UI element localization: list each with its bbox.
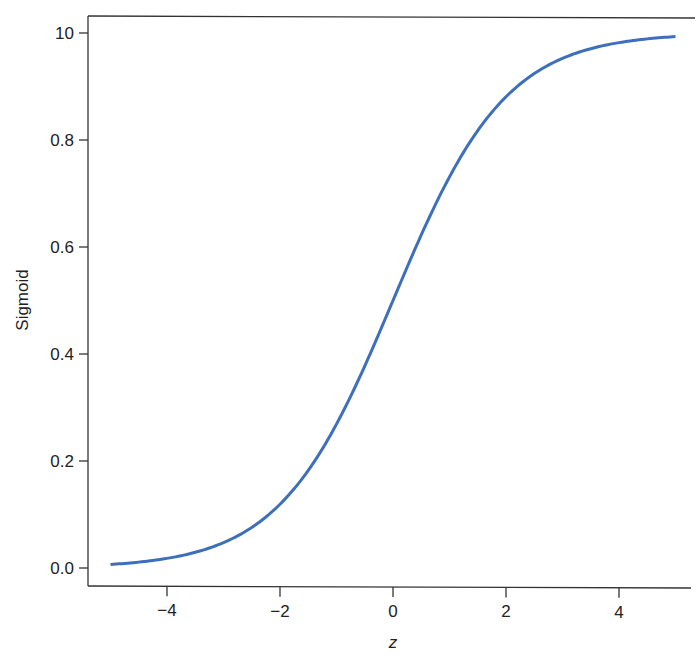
y-axis-ticks: 0.00.20.40.60.810 [50, 24, 88, 578]
sigmoid-curve [111, 37, 676, 565]
y-tick-label: 0.6 [50, 238, 74, 257]
y-tick-label: 10 [55, 24, 74, 43]
x-axis-ticks: −4−2024 [157, 586, 623, 621]
x-tick-label: 0 [388, 602, 397, 621]
y-tick-label: 0.2 [50, 452, 74, 471]
x-tick-label: −4 [157, 601, 176, 620]
x-tick-label: −2 [270, 602, 289, 621]
top-axis-line [88, 16, 695, 18]
y-axis-label: Sigmoid [13, 269, 32, 330]
y-tick-label: 0.4 [50, 345, 74, 364]
sigmoid-chart: 0.00.20.40.60.810 −4−2024 z Sigmoid [0, 0, 699, 664]
x-tick-label: 2 [501, 602, 510, 621]
x-tick-label: 4 [614, 603, 623, 622]
y-tick-label: 0.8 [50, 131, 74, 150]
y-tick-label: 0.0 [50, 559, 74, 578]
x-axis-label: z [388, 633, 398, 652]
x-axis-line [88, 586, 691, 588]
